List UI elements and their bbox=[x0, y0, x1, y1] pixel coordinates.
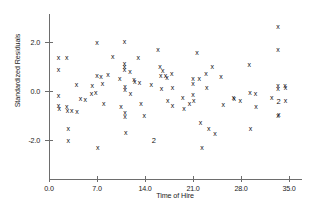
y-tick-mark bbox=[45, 140, 53, 141]
data-point-marker: x bbox=[74, 108, 81, 115]
data-point-marker: x bbox=[275, 46, 282, 53]
x-tick-mark bbox=[241, 176, 242, 182]
data-point-marker: x bbox=[158, 85, 165, 92]
data-point-marker: x bbox=[121, 38, 128, 45]
data-point-marker: x bbox=[275, 111, 282, 118]
data-point-overlap-count: 2 bbox=[150, 137, 157, 144]
data-point-marker: x bbox=[55, 92, 62, 99]
data-point-marker: x bbox=[209, 63, 216, 70]
data-point-marker: x bbox=[73, 81, 80, 88]
y-tick-label: -2.0 bbox=[18, 136, 40, 145]
data-point-marker: x bbox=[65, 137, 72, 144]
data-point-marker: x bbox=[56, 105, 63, 112]
x-tick-label: 35.0 bbox=[277, 184, 301, 193]
y-tick-mark bbox=[45, 91, 53, 92]
data-point-marker: x bbox=[55, 54, 62, 61]
data-point-marker: x bbox=[155, 46, 162, 53]
data-point-marker: x bbox=[211, 130, 218, 137]
x-tick-mark bbox=[145, 176, 146, 182]
data-point-marker: x bbox=[252, 90, 259, 97]
data-point-marker: x bbox=[203, 70, 210, 77]
data-point-marker: x bbox=[168, 70, 175, 77]
x-tick-mark bbox=[193, 176, 194, 182]
x-tick-mark bbox=[49, 176, 50, 182]
x-axis-title: Time of Hire bbox=[110, 191, 240, 200]
data-point-marker: x bbox=[100, 100, 107, 107]
data-point-marker: x bbox=[246, 61, 253, 68]
data-point-marker: x bbox=[127, 90, 134, 97]
data-point-marker: x bbox=[94, 39, 101, 46]
data-point-marker: x bbox=[65, 125, 72, 132]
data-point-marker: x bbox=[169, 102, 176, 109]
data-point-marker: x bbox=[135, 54, 142, 61]
data-point-marker: x bbox=[218, 73, 225, 80]
data-point-marker: x bbox=[99, 80, 106, 87]
scatter-plot: 2.00.0-2.0 0.07.014.021.028.035.0 xxxxxx… bbox=[0, 0, 311, 210]
data-point-marker: x bbox=[109, 53, 116, 60]
data-point-marker: x bbox=[116, 75, 123, 82]
data-point-marker: x bbox=[169, 84, 176, 91]
data-point-marker: x bbox=[92, 89, 99, 96]
data-point-marker: x bbox=[197, 119, 204, 126]
y-tick-mark bbox=[45, 42, 53, 43]
x-tick-label: 0.0 bbox=[37, 184, 61, 193]
x-axis-line bbox=[49, 179, 302, 180]
data-point-marker: x bbox=[282, 97, 289, 104]
data-point-marker: x bbox=[148, 81, 155, 88]
data-point-marker: x bbox=[136, 79, 143, 86]
data-point-marker: x bbox=[275, 23, 282, 30]
data-point-marker: x bbox=[203, 84, 210, 91]
data-point-marker: x bbox=[198, 144, 205, 151]
data-point-marker: x bbox=[282, 84, 289, 91]
data-point-marker: x bbox=[94, 144, 101, 151]
data-point-marker: x bbox=[104, 71, 111, 78]
x-tick-mark bbox=[289, 176, 290, 182]
x-tick-label: 7.0 bbox=[85, 184, 109, 193]
data-point-marker: x bbox=[137, 100, 144, 107]
data-point-marker: x bbox=[220, 101, 227, 108]
data-point-marker: x bbox=[89, 82, 96, 89]
data-point-marker: x bbox=[63, 54, 70, 61]
data-point-marker: x bbox=[190, 97, 197, 104]
data-point-marker: x bbox=[253, 103, 260, 110]
data-point-marker: x bbox=[247, 125, 254, 132]
data-point-marker: x bbox=[194, 49, 201, 56]
data-point-marker: x bbox=[122, 113, 129, 120]
y-axis-line bbox=[49, 14, 50, 180]
data-point-marker: x bbox=[55, 66, 62, 73]
data-point-marker: x bbox=[237, 97, 244, 104]
y-axis-title: Standardized Residuals bbox=[13, 21, 22, 121]
data-point-marker: x bbox=[122, 129, 129, 136]
data-point-marker: x bbox=[141, 112, 148, 119]
data-point-marker: x bbox=[126, 68, 133, 75]
x-tick-mark bbox=[97, 176, 98, 182]
